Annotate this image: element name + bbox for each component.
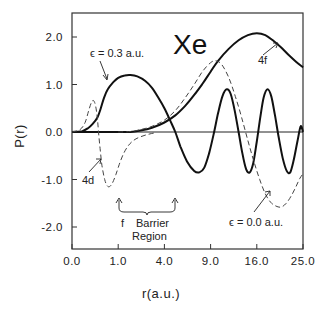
x-tick-label: 9.0 <box>202 255 220 267</box>
x-tick-label: 25.0 <box>291 255 315 267</box>
label-barrier-f: f <box>121 217 125 229</box>
label-eps-0.0: ϵ = 0.0 a.u. <box>229 216 283 228</box>
series--0-3-a-u- <box>72 75 303 173</box>
label-4f: 4f <box>258 54 268 66</box>
x-tick-label: 1.0 <box>109 255 127 267</box>
arrow-eps-0.0 <box>254 191 270 212</box>
arrow-4f <box>263 43 278 55</box>
label-barrier: Barrier <box>136 217 169 229</box>
chart: 0.01.04.09.016.025.02.01.00.0-1.0-2.0 Xe… <box>0 0 327 312</box>
arrow-4d <box>89 159 101 172</box>
y-tick-label: 1.0 <box>46 79 64 91</box>
chart-title: Xe <box>173 29 207 60</box>
label-region: Region <box>132 230 167 242</box>
y-axis-title: P(r) <box>12 124 27 148</box>
y-tick-label: 2.0 <box>46 31 64 43</box>
y-tick-label: -1.0 <box>41 174 63 186</box>
x-tick-label: 16.0 <box>245 255 269 267</box>
axis-ticks: 0.01.04.09.016.025.02.01.00.0-1.0-2.0 <box>41 31 315 267</box>
label-4d: 4d <box>82 174 94 186</box>
barrier-region-brace <box>116 198 178 215</box>
label-eps-0.3: ϵ = 0.3 a.u. <box>90 47 144 59</box>
x-axis-title: r(a.u.) <box>142 286 180 301</box>
x-tick-label: 0.0 <box>63 255 81 267</box>
x-tick-label: 4.0 <box>156 255 174 267</box>
y-tick-label: -2.0 <box>41 221 63 233</box>
y-tick-label: 0.0 <box>46 126 64 138</box>
